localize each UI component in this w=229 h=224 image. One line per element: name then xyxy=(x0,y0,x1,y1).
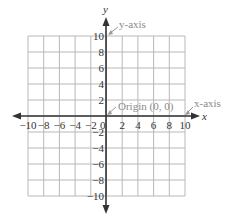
y-tick-label: 2 xyxy=(99,94,105,106)
x-tick-label: −8 xyxy=(38,119,50,131)
x-axis-annotation-text: x-axis xyxy=(194,97,221,109)
y-tick-label: 4 xyxy=(99,78,105,90)
x-tick-label: 8 xyxy=(167,119,173,131)
x-tick-label: 2 xyxy=(119,119,125,131)
origin-annotation-text: Origin (0, 0) xyxy=(118,100,174,113)
x-tick-labels: −10−8−6−4−20246810 xyxy=(19,119,191,131)
x-tick-label: −6 xyxy=(54,119,66,131)
y-axis-label: y xyxy=(102,3,108,15)
x-tick-label: −10 xyxy=(19,119,37,131)
x-tick-label: −4 xyxy=(69,119,81,131)
y-axis-pointer-head-icon xyxy=(108,30,113,35)
y-tick-label: 6 xyxy=(99,62,105,74)
y-axis-up-arrow-icon xyxy=(103,17,110,26)
x-axis-label: x xyxy=(201,110,207,122)
y-axis-down-arrow-icon xyxy=(103,205,110,214)
y-tick-label: 8 xyxy=(99,46,105,58)
x-axis-right-arrow-icon xyxy=(191,113,200,120)
y-tick-label: −8 xyxy=(92,174,104,186)
origin-annotation: Origin (0, 0) xyxy=(107,100,174,115)
x-tick-label: 4 xyxy=(135,119,141,131)
y-tick-label: −4 xyxy=(92,142,104,154)
y-tick-label: −6 xyxy=(92,158,104,170)
x-tick-label: 10 xyxy=(180,119,192,131)
coordinate-plane: y x −10−8−6−4−20246810 246810−2−4−6−8−10… xyxy=(0,0,229,224)
y-tick-label: −10 xyxy=(87,190,105,202)
y-tick-label: −2 xyxy=(92,126,104,138)
y-axis-annotation: y-axis xyxy=(108,18,146,35)
x-tick-label: 6 xyxy=(151,119,157,131)
y-tick-label: 10 xyxy=(93,30,105,42)
y-axis-annotation-text: y-axis xyxy=(119,18,146,30)
